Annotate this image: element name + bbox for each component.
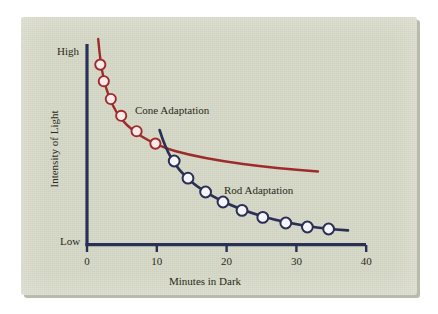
rod-point: [257, 212, 268, 223]
rod-adaptation-label: Rod Adaptation: [224, 184, 293, 196]
cone-point: [99, 76, 109, 86]
x-tick-label-30: 30: [291, 255, 302, 267]
y-axis-high-label: High: [57, 45, 79, 57]
figure-panel: High Low Intensity of Light Minutes in D…: [21, 17, 417, 295]
dark-adaptation-chart: [21, 17, 417, 295]
cone-point: [132, 126, 142, 136]
cone-adaptation-label: Cone Adaptation: [135, 104, 209, 116]
rod-point: [200, 187, 211, 198]
x-tick-label-10: 10: [151, 255, 162, 267]
y-axis-title: Intensity of Light: [48, 94, 60, 204]
axis-group: [86, 44, 367, 246]
rod-point: [218, 197, 229, 208]
rod-point: [323, 224, 334, 235]
cone-point: [95, 60, 105, 70]
x-tick-label-20: 20: [221, 255, 232, 267]
rod-point: [302, 222, 313, 233]
rod-point: [183, 173, 194, 184]
rod-point: [280, 218, 291, 229]
rod-point: [169, 156, 180, 167]
rod-point: [237, 205, 248, 216]
cone-point: [106, 94, 116, 104]
x-tick-label-0: 0: [84, 255, 90, 267]
cone-point: [150, 139, 160, 149]
x-axis-title: Minutes in Dark: [169, 275, 241, 287]
x-tick-label-40: 40: [361, 255, 372, 267]
y-axis-low-label: Low: [60, 235, 80, 247]
screenshot-root: High Low Intensity of Light Minutes in D…: [0, 0, 438, 314]
cone-point: [116, 111, 126, 121]
